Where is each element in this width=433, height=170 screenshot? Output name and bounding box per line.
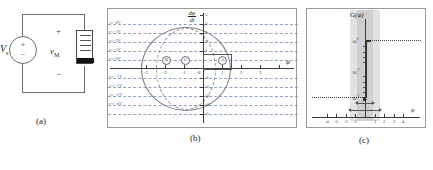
panel-c-conductance: -4 -3 -2 -1 1 2 3 4 100 10-1 10-2 G(φ) φ… bbox=[306, 8, 426, 128]
c-minor-8 bbox=[363, 92, 365, 93]
wire-top bbox=[22, 14, 84, 15]
caption-b: (b) bbox=[190, 133, 201, 143]
outer-band-arrow-right bbox=[379, 108, 382, 112]
c-xtick-4 bbox=[403, 114, 404, 117]
source-minus-sign: − bbox=[10, 51, 36, 59]
phase-ytick-3 bbox=[200, 33, 203, 34]
voltage-source-symbol: + − bbox=[9, 36, 37, 64]
figure-root: + − Vs + − vM (a) vs=4V vs=3V vs= bbox=[0, 0, 433, 170]
memristor-polarity-bar bbox=[77, 58, 94, 63]
caption-c: (c) bbox=[359, 135, 369, 145]
memristor-line-3 bbox=[80, 45, 91, 46]
vs-level-label-m3: vs=-3V bbox=[109, 92, 122, 97]
phase-ytick--4 bbox=[200, 105, 203, 106]
conductance-title: G(φ) bbox=[350, 11, 364, 19]
c-minor-7 bbox=[363, 87, 365, 88]
dt-denominator: dt bbox=[190, 17, 195, 23]
c-xlabel--1: -1 bbox=[353, 119, 357, 124]
panel-a-circuit: + − Vs + − vM (a) bbox=[0, 0, 105, 115]
c-xtick-3 bbox=[394, 114, 395, 117]
phase-xlabel-3: 3 bbox=[259, 70, 261, 75]
equilibrium-point-b: B bbox=[162, 56, 171, 65]
c-minor-2 bbox=[363, 52, 365, 53]
phase-xtick-3 bbox=[260, 65, 261, 68]
vs-level-label-1: vs=1V bbox=[109, 47, 121, 52]
c-xtick--4 bbox=[327, 114, 328, 117]
outer-band-arrow-line bbox=[351, 110, 379, 111]
c-xlabel-1: 1 bbox=[374, 119, 376, 124]
phase-xtick--1 bbox=[184, 65, 185, 68]
phase-ytick--1 bbox=[200, 78, 203, 79]
vs-level-label-3: vs=3V bbox=[109, 29, 121, 34]
c-xtick--2 bbox=[346, 114, 347, 117]
c-minor-1 bbox=[363, 46, 365, 47]
phase-xtick-2 bbox=[241, 65, 242, 68]
outer-band-arrow-left bbox=[348, 108, 351, 112]
phase-ylabel--3: -3 bbox=[205, 93, 209, 98]
memristor-line-1 bbox=[80, 35, 91, 36]
phase-ytick-2 bbox=[200, 42, 203, 43]
wire-left-lower bbox=[22, 62, 23, 93]
c-ylabel-001: 10-2 bbox=[352, 94, 359, 101]
vs-level-label-0: vs=0V bbox=[109, 56, 121, 61]
c-minor-5 bbox=[363, 76, 365, 77]
vs-level-label-m1: vs=-1V bbox=[109, 74, 122, 79]
device-minus-sign: − bbox=[56, 70, 61, 78]
c-ylabel-1: 100 bbox=[352, 37, 358, 44]
vs-level-label-4: vs=4V bbox=[109, 20, 121, 25]
c-xlabel-2: 2 bbox=[383, 119, 385, 124]
vs-level-label-m4: vs=-4V bbox=[109, 101, 122, 106]
phase-xlabel--2: -2 bbox=[163, 70, 167, 75]
memristor-line-4 bbox=[80, 50, 91, 51]
phase-ylabel-1: 1 bbox=[205, 48, 207, 53]
phase-xlabel-1: 1 bbox=[221, 70, 223, 75]
c-minor-4 bbox=[363, 62, 365, 63]
phase-ytick-4 bbox=[200, 24, 203, 25]
phase-ytick--5 bbox=[200, 114, 203, 115]
phase-xtick--2 bbox=[165, 65, 166, 68]
phase-ylabel-2: 2 bbox=[205, 39, 207, 44]
conductance-x-axis bbox=[312, 117, 420, 118]
wire-right-lower bbox=[84, 66, 85, 93]
c-xtick-2 bbox=[384, 114, 385, 117]
equilibrium-point-c: C bbox=[181, 56, 190, 65]
phase-xlabel-2: 2 bbox=[240, 70, 242, 75]
phase-x-axis-title: φ bbox=[286, 58, 290, 66]
phase-ytick--2 bbox=[200, 87, 203, 88]
c-xtick-1 bbox=[375, 114, 376, 117]
caption-a: (a) bbox=[36, 116, 46, 126]
phase-xlabel--1: -1 bbox=[182, 70, 186, 75]
c-xtick--3 bbox=[336, 114, 337, 117]
phase-ylabel--4: -4 bbox=[205, 102, 209, 107]
phase-xtick--3 bbox=[146, 65, 147, 68]
guide-line-upper bbox=[365, 40, 421, 41]
inner-band-arrow-left bbox=[355, 101, 358, 105]
phase-xlabel--3: -3 bbox=[144, 70, 148, 75]
vs-level-label-2: vs=2V bbox=[109, 38, 121, 43]
conductance-x-axis-title: φ bbox=[411, 107, 414, 113]
device-plus-sign: + bbox=[56, 27, 61, 35]
c-xlabel--4: -4 bbox=[325, 119, 329, 124]
phase-ylabel-3: 3 bbox=[205, 30, 207, 35]
phase-xlabel-0: 0 bbox=[198, 70, 200, 75]
phase-ylabel--1: -1 bbox=[205, 75, 209, 80]
phase-y-axis-title: dφ dt bbox=[180, 10, 204, 23]
phase-ytick-1 bbox=[200, 51, 203, 52]
wire-right-upper bbox=[84, 14, 85, 30]
phase-ylabel--5: -5 bbox=[205, 111, 209, 116]
panel-b-phase-portrait: vs=4V vs=3V vs=2V vs=1V vs=0V vs=-1V vs=… bbox=[107, 8, 297, 128]
device-voltage-label: vM bbox=[50, 46, 59, 58]
vs-level-label-m2: vs=-2V bbox=[109, 83, 122, 88]
phase-ylabel-4: 4 bbox=[205, 21, 207, 26]
c-xlabel--2: -2 bbox=[344, 119, 348, 124]
phase-x-axis bbox=[110, 68, 294, 69]
c-xlabel-4: 4 bbox=[402, 119, 404, 124]
c-minor-3 bbox=[363, 57, 365, 58]
inner-band-arrow-right bbox=[372, 101, 375, 105]
source-plus-sign: + bbox=[10, 41, 36, 49]
wire-bottom bbox=[22, 92, 84, 93]
memristor-line-2 bbox=[80, 40, 91, 41]
phase-ytick--3 bbox=[200, 96, 203, 97]
c-xtick--1 bbox=[355, 114, 356, 117]
memristor-symbol bbox=[76, 30, 93, 64]
